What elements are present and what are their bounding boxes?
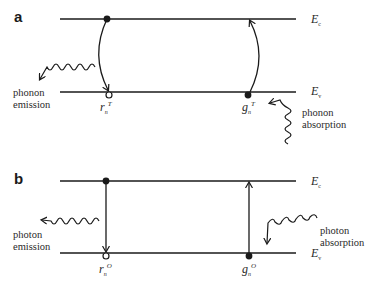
- recombination-arrow-a: [99, 19, 108, 90]
- phonon-emission-wave-icon: [40, 64, 95, 79]
- rate-superscript: O: [107, 262, 112, 270]
- electron-dot-b: [103, 178, 110, 185]
- rate-label-r-a: rnT: [100, 100, 112, 115]
- electron-dot-lower-a: [245, 92, 252, 99]
- level-subscript: v: [318, 255, 321, 261]
- process-line2: absorption: [302, 119, 346, 131]
- rate-subscript: n: [104, 271, 107, 277]
- upper-level-label-b: Ec: [311, 174, 321, 189]
- upper-level-label-a: Ec: [311, 12, 321, 27]
- process-line2: absorption: [320, 237, 364, 249]
- panel-label-b: b: [14, 170, 23, 187]
- rate-label-g-b: gnO: [242, 262, 256, 277]
- process-line1: photon: [13, 229, 50, 241]
- level-subscript: c: [318, 183, 321, 189]
- phonon-absorption-wave-icon: [270, 100, 291, 144]
- electron-dot-a: [104, 16, 111, 23]
- photon-absorption-label: photonabsorption: [320, 225, 364, 248]
- lower-level-label-b: Ev: [311, 246, 321, 261]
- lower-level-label-a: Ev: [311, 84, 321, 99]
- electron-dot-lower-b: [246, 253, 253, 260]
- phonon-emission-label: phononemission: [13, 87, 50, 110]
- process-line2: emission: [13, 99, 50, 111]
- generation-arrow-a: [250, 21, 259, 92]
- panel-b: [42, 178, 317, 260]
- rate-superscript: T: [108, 100, 112, 108]
- process-line1: phonon: [302, 107, 346, 119]
- rate-subscript: n: [248, 271, 251, 277]
- hole-circle-a: [106, 92, 112, 98]
- panel-label-a: a: [14, 8, 22, 25]
- rate-superscript: O: [251, 262, 256, 270]
- level-subscript: v: [318, 93, 321, 99]
- rate-subscript: n: [105, 109, 108, 115]
- rate-label-r-b: rnO: [99, 262, 112, 277]
- hole-circle-b: [103, 253, 109, 259]
- rate-superscript: T: [251, 100, 255, 108]
- process-line1: photon: [320, 225, 364, 237]
- level-subscript: c: [318, 21, 321, 27]
- photon-emission-wave-icon: [42, 218, 99, 224]
- photon-absorption-wave-icon: [267, 215, 317, 243]
- rate-label-g-a: gnT: [242, 100, 255, 115]
- rate-subscript: n: [248, 109, 251, 115]
- panel-a: [40, 16, 296, 144]
- photon-emission-label: photonemission: [13, 229, 50, 252]
- process-line1: phonon: [13, 87, 50, 99]
- process-line2: emission: [13, 241, 50, 253]
- phonon-absorption-label: phononabsorption: [302, 107, 346, 130]
